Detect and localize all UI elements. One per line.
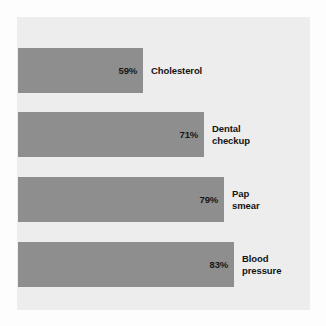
bar-value-label: 71% — [180, 129, 204, 140]
bar-category-label: Cholesterol — [151, 48, 202, 93]
bar-value-label: 59% — [119, 65, 143, 76]
bar-pap-smear[interactable]: 79% — [18, 177, 224, 222]
bar-blood-pressure[interactable]: 83% — [18, 242, 234, 287]
bar-dental-checkup[interactable]: 71% — [18, 112, 204, 157]
bar-value-label: 79% — [200, 194, 224, 205]
bar-category-label: Blood pressure — [242, 242, 281, 287]
bar-chart: 59% Cholesterol 71% Dental checkup 79% P… — [0, 0, 326, 326]
bars-layer: 59% Cholesterol 71% Dental checkup 79% P… — [17, 17, 310, 310]
plot-area: 59% Cholesterol 71% Dental checkup 79% P… — [17, 17, 310, 310]
bar-category-label: Dental checkup — [212, 112, 250, 157]
bar-category-label: Pap smear — [232, 177, 260, 222]
bar-cholesterol[interactable]: 59% — [18, 48, 143, 93]
bar-value-label: 83% — [210, 259, 234, 270]
